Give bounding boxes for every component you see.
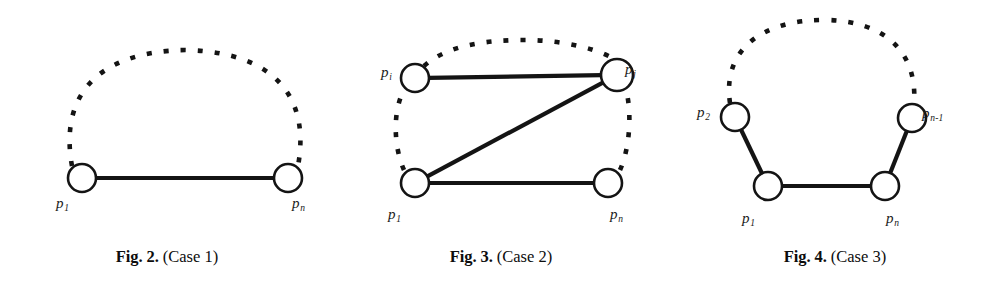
- node-label-pi: pi: [381, 65, 392, 80]
- solid-edge-pj-p1: [426, 82, 603, 177]
- figures-container: p1 pn Fig. 2.(Case 1) pi: [0, 0, 1002, 306]
- solid-edge-p2-p1: [741, 129, 763, 175]
- node-label-p1: p1: [56, 196, 69, 211]
- caption-bold-fig-4: Fig. 4.: [784, 247, 827, 266]
- node-label-pn-1: pn-1: [922, 106, 943, 121]
- caption-bold-fig-2: Fig. 2.: [116, 247, 159, 266]
- node-label-pj: pj: [625, 62, 636, 77]
- node-p1[interactable]: [754, 172, 782, 200]
- node-p1[interactable]: [401, 169, 429, 197]
- solid-edges-fig-3: [426, 75, 603, 183]
- node-pn[interactable]: [594, 169, 622, 197]
- dashed-arc-pn-pj-right: [620, 90, 629, 170]
- figure-panel-fig-2: p1 pn Fig. 2.(Case 1): [0, 0, 334, 306]
- node-pi[interactable]: [401, 64, 429, 92]
- node-p1[interactable]: [68, 164, 96, 192]
- node-pn[interactable]: [274, 164, 302, 192]
- figure-panel-fig-3: pi pj p1 pn Fig. 3.(Case 2): [334, 0, 668, 306]
- dashed-arcs-fig-2: [70, 50, 301, 166]
- solid-edge-pn-pn1: [890, 130, 907, 174]
- figure-caption-fig-3: Fig. 3.(Case 2): [334, 248, 668, 266]
- caption-rest-fig-3: (Case 2): [497, 247, 552, 266]
- node-label-pn: pn: [610, 207, 623, 222]
- node-label-pn: pn: [292, 196, 305, 211]
- solid-edge-pi-pj: [428, 75, 602, 78]
- figure-caption-fig-2: Fig. 2.(Case 1): [0, 248, 334, 266]
- dashed-arc-p1-pn-top: [70, 50, 301, 166]
- dashed-arc-p1-pi-left: [396, 90, 404, 170]
- caption-bold-fig-3: Fig. 3.: [450, 247, 493, 266]
- node-label-p2: p2: [697, 105, 710, 120]
- dashed-arcs-fig-4: [729, 20, 914, 104]
- node-label-p1: p1: [388, 207, 401, 222]
- dashed-arc-p2-pn1-top: [729, 20, 914, 104]
- figure-panel-fig-4: p2 pn-1 p1 pn Fig. 4.(Case 3): [668, 0, 1002, 306]
- figure-caption-fig-4: Fig. 4.(Case 3): [668, 248, 1002, 266]
- caption-rest-fig-4: (Case 3): [831, 247, 886, 266]
- node-p2[interactable]: [721, 103, 749, 131]
- caption-rest-fig-2: (Case 1): [163, 247, 218, 266]
- node-pn[interactable]: [871, 172, 899, 200]
- node-label-pn: pn: [886, 211, 899, 226]
- dashed-arcs-fig-3: [396, 40, 630, 170]
- node-label-p1: p1: [742, 211, 755, 226]
- dashed-arc-pi-pj-top: [424, 40, 619, 66]
